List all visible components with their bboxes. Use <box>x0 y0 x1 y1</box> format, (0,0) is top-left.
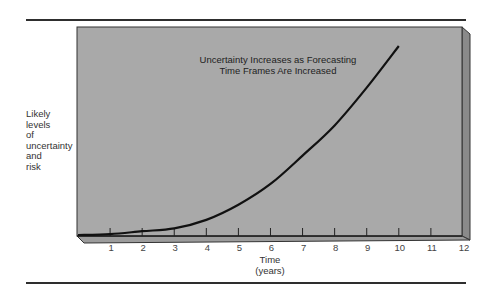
x-tick-label: 5 <box>237 242 242 253</box>
x-tick-label: 1 <box>108 242 113 253</box>
chart-title-line-2: Time Frames Are Increased <box>178 65 378 76</box>
x-tick-label: 4 <box>205 242 210 253</box>
y-label-line: Likely <box>26 109 72 120</box>
chart-title: Uncertainty Increases as Forecasting Tim… <box>178 54 378 76</box>
y-axis-label: Likely levels of uncertainty and risk <box>26 109 72 172</box>
y-label-line: risk <box>26 162 72 173</box>
x-tick-label: 6 <box>269 242 274 253</box>
chart-title-line-1: Uncertainty Increases as Forecasting <box>178 54 378 65</box>
panel-right-bevel <box>462 27 470 240</box>
x-label-line: Time <box>255 255 285 266</box>
x-tick-label: 11 <box>427 242 437 253</box>
x-axis-label: Time (years) <box>255 255 285 276</box>
x-tick-label: 3 <box>173 242 178 253</box>
x-tick-label: 2 <box>141 242 146 253</box>
y-label-line: of <box>26 130 72 141</box>
y-label-line: and <box>26 151 72 162</box>
x-tick-label: 7 <box>301 242 306 253</box>
x-tick-label: 8 <box>333 242 338 253</box>
x-tick-label: 12 <box>459 242 470 253</box>
chart-panel <box>0 0 495 296</box>
x-tick-label: 9 <box>365 242 370 253</box>
x-label-line: (years) <box>255 266 285 277</box>
x-tick-label: 10 <box>395 242 406 253</box>
